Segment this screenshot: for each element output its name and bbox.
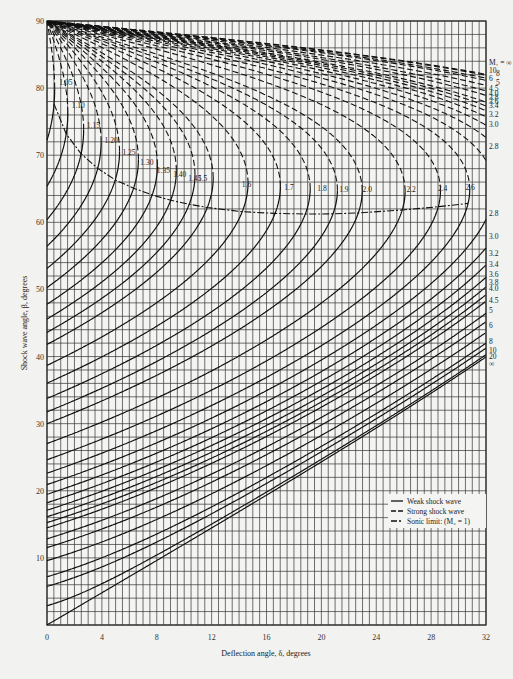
weak-curve-label: 2.8 xyxy=(489,209,499,218)
legend-label: Sonic limit: (M₂ = 1) xyxy=(407,517,471,526)
y-tick-label: 90 xyxy=(36,17,44,26)
sonic-curve-label: 1.5 xyxy=(198,174,208,183)
sonic-curve-label: 2.4 xyxy=(438,184,448,193)
sonic-curve-label: 1.25 xyxy=(122,148,135,157)
weak-curve-label: ∞ xyxy=(489,359,494,368)
sonic-curve-label: 1.6 xyxy=(242,180,252,189)
x-tick-label: 0 xyxy=(45,633,49,642)
weak-curve-label: 8 xyxy=(489,337,493,346)
y-tick-label: 40 xyxy=(36,353,44,362)
strong-curve-label: 8 xyxy=(496,69,500,78)
x-tick-label: 8 xyxy=(155,633,159,642)
strong-curve-label: 3.2 xyxy=(489,110,499,119)
sonic-curve-label: 1.35 xyxy=(157,166,170,175)
strong-curve-label: 3.0 xyxy=(489,120,499,129)
x-tick-label: 12 xyxy=(208,633,216,642)
sonic-curve-label: 1.40 xyxy=(173,170,186,179)
y-axis-title: Shock wave angle, β, degrees xyxy=(20,276,29,371)
oblique-shock-chart: 1.051.101.151.201.251.301.351.401.451.51… xyxy=(0,0,513,679)
y-tick-label: 10 xyxy=(36,554,44,563)
strong-curve-label: 2.8 xyxy=(489,142,499,151)
sonic-curve-label: 2.6 xyxy=(465,183,475,192)
x-tick-label: 16 xyxy=(263,633,271,642)
sonic-curve-label: 1.9 xyxy=(339,185,349,194)
y-tick-label: 80 xyxy=(36,84,44,93)
legend-label: Weak shock wave xyxy=(407,497,462,506)
x-tick-label: 24 xyxy=(372,633,380,642)
x-tick-label: 4 xyxy=(100,633,104,642)
y-tick-label: 30 xyxy=(36,420,44,429)
sonic-curve-label: 2.2 xyxy=(406,185,416,194)
weak-curve-label: 3.2 xyxy=(489,249,499,258)
sonic-curve-label: 1.8 xyxy=(317,184,327,193)
legend: Weak shock waveStrong shock waveSonic li… xyxy=(388,494,486,528)
sonic-curve-label: 1.15 xyxy=(87,121,100,130)
strong-curve-label: 6 xyxy=(489,74,493,83)
weak-curve-label: 6 xyxy=(489,321,493,330)
y-tick-label: 70 xyxy=(36,151,44,160)
weak-curve-label: 4.5 xyxy=(489,296,499,305)
x-tick-label: 20 xyxy=(317,633,325,642)
sonic-curve-label: 1.7 xyxy=(284,183,294,192)
sonic-curve-label: 2.0 xyxy=(363,185,373,194)
x-tick-label: 32 xyxy=(482,633,490,642)
sonic-curve-label: 1.30 xyxy=(140,158,153,167)
strong-curve-label: 3.4 xyxy=(489,101,499,110)
sonic-curve-label: 1.20 xyxy=(105,136,118,145)
sonic-curve-label: 1.05 xyxy=(59,78,72,87)
y-tick-label: 60 xyxy=(36,218,44,227)
sonic-curve-label: 1.10 xyxy=(72,101,85,110)
x-tick-label: 28 xyxy=(427,633,435,642)
y-tick-label: 20 xyxy=(36,487,44,496)
x-axis-title: Deflection angle, δ, degrees xyxy=(221,649,310,658)
weak-curve-label: 5 xyxy=(489,306,493,315)
y-tick-label: 50 xyxy=(36,285,44,294)
legend-label: Strong shock wave xyxy=(407,507,465,516)
weak-curve-label: 3.4 xyxy=(489,260,499,269)
weak-curve-label: 4.0 xyxy=(489,284,499,293)
weak-curve-label: 3.0 xyxy=(489,232,499,241)
